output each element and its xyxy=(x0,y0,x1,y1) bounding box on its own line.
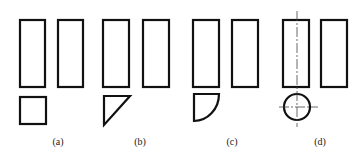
front-view-rect-right xyxy=(143,20,169,87)
panel-label-d: (d) xyxy=(314,136,326,148)
front-view-rect-left xyxy=(103,20,129,87)
front-view-rect-left xyxy=(20,20,45,87)
section-quarter-circle xyxy=(194,94,219,121)
front-view-rect-right xyxy=(58,20,83,87)
front-view-rect-left xyxy=(193,20,219,87)
front-view-rect-right xyxy=(232,20,258,87)
section-triangle xyxy=(104,96,130,125)
section-square xyxy=(20,97,46,124)
orthographic-views-diagram: (a) (b) (c) (d) xyxy=(0,0,362,160)
front-view-rect-left xyxy=(283,20,309,87)
panel-label-a: (a) xyxy=(52,136,63,148)
panel-label-c: (c) xyxy=(226,136,237,148)
panel-c: (c) xyxy=(193,20,258,148)
panel-label-b: (b) xyxy=(134,136,146,148)
panel-b: (b) xyxy=(103,20,169,148)
panel-a: (a) xyxy=(20,20,83,148)
front-view-rect-right xyxy=(321,20,347,87)
panel-d: (d) xyxy=(279,11,347,148)
